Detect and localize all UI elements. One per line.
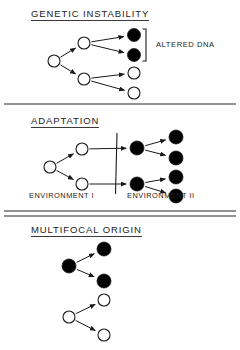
environment-two-label: ENVIRONMENT II	[127, 191, 195, 200]
environment-one-label: ENVIRONMENT I	[29, 191, 94, 200]
panel-title-adaptation: ADAPTATION	[31, 115, 99, 128]
node-open-g5	[128, 67, 140, 79]
node-filled-a3	[130, 141, 144, 155]
edges-group	[57, 37, 166, 331]
altered-dna-label: ALTERED DNA	[156, 40, 215, 49]
node-open-m4	[98, 294, 110, 306]
figure-root: GENETIC INSTABILITY ALTERED DNA ADAPTATI…	[0, 0, 240, 350]
panel-title-genetic-instability: GENETIC INSTABILITY	[31, 8, 149, 21]
edge-g1-g3	[91, 37, 123, 42]
node-filled-g4	[128, 49, 141, 62]
node-open-a0	[44, 161, 56, 173]
environment-divider-line	[116, 133, 118, 194]
node-filled-g3	[128, 29, 141, 42]
edge-m0-m1	[77, 254, 95, 263]
edge-g2-g6	[91, 81, 124, 90]
edge-m0-m2	[77, 269, 94, 276]
node-open-m5	[98, 329, 110, 341]
edge-a3-a5	[145, 140, 165, 146]
node-filled-a4	[130, 177, 144, 191]
node-open-a1	[76, 143, 88, 155]
edge-m3-m5	[76, 320, 96, 330]
edge-g0-g2	[60, 65, 75, 74]
node-open-g1	[78, 37, 90, 49]
node-filled-a7	[169, 170, 183, 184]
edge-a0-a1	[57, 154, 74, 164]
edge-g2-g5	[91, 74, 124, 78]
altered-dna-bracket	[143, 29, 147, 61]
node-filled-a5	[169, 130, 183, 144]
node-filled-a6	[169, 151, 183, 165]
edge-m3-m4	[76, 304, 95, 313]
edge-g0-g1	[60, 48, 75, 57]
diagram-canvas	[0, 0, 240, 350]
edge-a4-a7	[145, 179, 165, 183]
node-open-g2	[78, 73, 90, 85]
node-open-g6	[128, 87, 140, 99]
edge-g1-g4	[91, 45, 124, 53]
node-filled-m0	[62, 259, 76, 273]
node-open-m3	[63, 311, 75, 323]
panel-title-multifocal-origin: MULTIFOCAL ORIGIN	[31, 224, 142, 237]
node-filled-m2	[97, 274, 111, 288]
edge-a3-a6	[145, 150, 165, 155]
node-open-a2	[76, 178, 88, 190]
node-open-g0	[48, 55, 60, 67]
node-filled-m1	[97, 242, 111, 256]
edge-a0-a2	[57, 171, 74, 180]
edge-a1-a3	[89, 148, 126, 149]
